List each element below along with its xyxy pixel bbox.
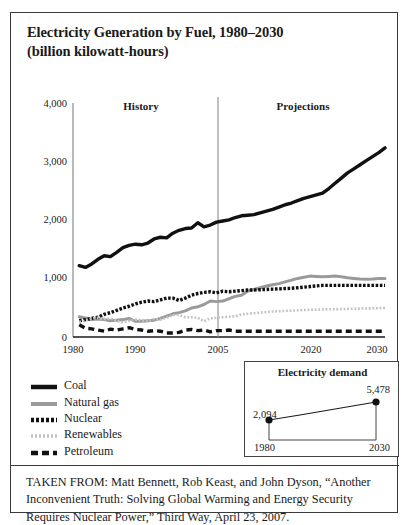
legend-swatch-icon	[31, 412, 57, 424]
x-tick-2005: 2005	[208, 344, 229, 355]
source-caption: TAKEN FROM: Matt Bennett, Rob Keast, and…	[26, 474, 384, 525]
legend-item-coal: Coal	[31, 377, 191, 393]
figure-title-line-2: (billion kilowatt-hours)	[27, 42, 377, 61]
inset-point-end	[372, 398, 379, 405]
y-tick-2000: 2,000	[43, 214, 67, 225]
legend-item-nuclear: Nuclear	[31, 410, 191, 426]
y-tick-3000: 3,000	[43, 156, 67, 167]
projections-label: Projections	[277, 100, 331, 112]
legend-swatch-icon	[31, 379, 57, 391]
legend-label: Coal	[64, 379, 87, 391]
series-line-nuclear	[79, 285, 385, 320]
y-tick-4000: 4,000	[43, 98, 67, 109]
inset-year-end: 2030	[369, 442, 390, 453]
legend-label: Renewables	[64, 428, 122, 440]
inset-demand-line	[269, 402, 376, 420]
figure-title-line-1: Electricity Generation by Fuel, 1980–203…	[27, 24, 283, 40]
series-line-natural-gas	[79, 276, 385, 321]
inset-year-start: 1980	[254, 442, 275, 453]
main-chart-svg: History Projections 4,000 3,000 2,000 1,…	[11, 85, 399, 360]
y-tick-0: 0	[62, 332, 67, 343]
legend-swatch-icon	[31, 428, 57, 440]
figure-title: Electricity Generation by Fuel, 1980–203…	[27, 23, 377, 61]
series-line-petroleum	[79, 325, 385, 333]
y-tick-1000: 1,000	[43, 272, 67, 283]
inset-value-end: 5,478	[366, 384, 390, 395]
inset-electricity-demand: Electricity demand 2,094 5,478 1980 2030	[244, 361, 399, 457]
chart-legend: CoalNatural gasNuclearRenewablesPetroleu…	[31, 377, 191, 459]
legend-item-petroleum: Petroleum	[31, 443, 191, 459]
legend-label: Natural gas	[64, 396, 119, 408]
x-tick-2020: 2020	[301, 344, 322, 355]
main-chart: History Projections 4,000 3,000 2,000 1,…	[11, 85, 399, 360]
legend-swatch-icon	[31, 396, 57, 408]
inset-value-start: 2,094	[253, 409, 277, 420]
legend-swatch-icon	[31, 445, 57, 457]
legend-label: Petroleum	[64, 445, 113, 457]
figure-frame: Electricity Generation by Fuel, 1980–203…	[10, 12, 398, 513]
history-label: History	[123, 100, 159, 112]
x-tick-1980: 1980	[63, 344, 84, 355]
legend-item-renewables: Renewables	[31, 426, 191, 442]
legend-label: Nuclear	[64, 412, 102, 424]
x-tick-2030: 2030	[367, 344, 388, 355]
legend-item-natural-gas: Natural gas	[31, 393, 191, 409]
series-line-coal	[79, 148, 385, 267]
series-layer	[79, 148, 385, 333]
caption-divider	[11, 465, 399, 466]
x-tick-1990: 1990	[125, 344, 146, 355]
